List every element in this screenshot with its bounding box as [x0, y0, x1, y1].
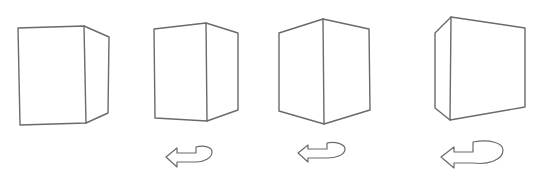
- cube-3-left-face: [279, 19, 324, 124]
- cube-4-front-face: [450, 17, 525, 120]
- cube-1-side-face: [84, 26, 109, 123]
- cube-2: [154, 23, 238, 121]
- rotate-left-arrow-icon: [441, 141, 503, 168]
- cube-1: [18, 26, 109, 125]
- cube-2-front-face: [154, 23, 207, 121]
- rotate-left-arrow-icon: [298, 142, 345, 162]
- rotating-box-diagram: [0, 0, 536, 182]
- cube-4: [435, 17, 525, 120]
- cube-2-side-face: [206, 23, 238, 121]
- rotate-left-arrow-icon: [166, 146, 212, 167]
- cube-1-front-face: [18, 26, 86, 125]
- cube-3: [279, 19, 370, 124]
- cube-4-side-face: [435, 17, 451, 120]
- cube-3-right-face: [323, 19, 370, 124]
